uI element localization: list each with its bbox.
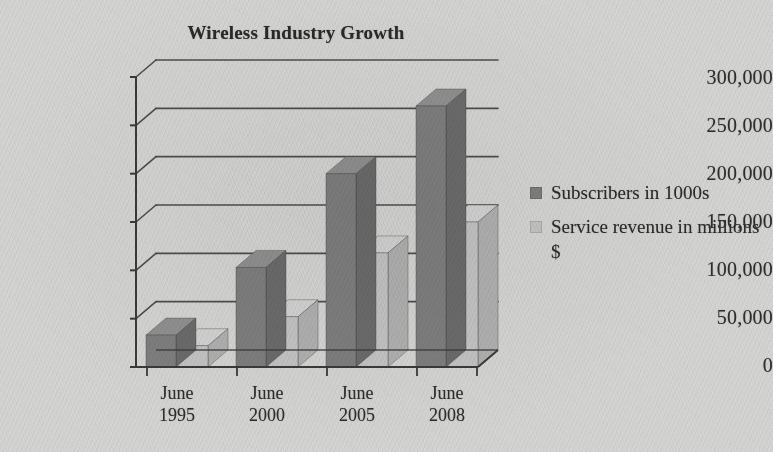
x-axis-label-line2: 2000 [224, 404, 310, 426]
wireless-industry-growth-chart: Wireless Industry Growth 300,000 250,000… [0, 0, 773, 452]
x-axis-category-label: June 2005 [314, 382, 400, 426]
chart-legend: Subscribers in 1000s Service revenue in … [530, 180, 770, 273]
x-axis-label-line2: 2005 [314, 404, 400, 426]
x-axis-label-line1: June [314, 382, 400, 404]
x-axis-category-label: June 1995 [134, 382, 220, 426]
x-axis-label-line2: 2008 [404, 404, 490, 426]
x-axis-label-line1: June [404, 382, 490, 404]
bar-series-group [146, 89, 498, 367]
legend-item-subscribers: Subscribers in 1000s [530, 180, 770, 205]
legend-swatch-service-revenue [530, 221, 542, 233]
x-axis-category-label: June 2008 [404, 382, 490, 426]
x-axis-label-line2: 1995 [134, 404, 220, 426]
x-axis-label-line1: June [224, 382, 310, 404]
legend-swatch-subscribers [530, 187, 542, 199]
legend-label: Subscribers in 1000s [551, 180, 709, 205]
x-axis-category-label: June 2000 [224, 382, 310, 426]
legend-label: Service revenue in millions $ [551, 214, 770, 264]
legend-item-service-revenue: Service revenue in millions $ [530, 214, 770, 264]
x-axis-label-line1: June [134, 382, 220, 404]
